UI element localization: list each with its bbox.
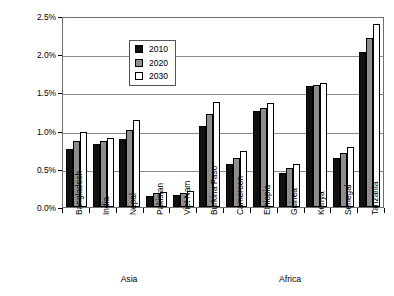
bar [359,52,366,207]
y-tick-label: 1.0% [16,128,56,136]
x-label-cell: Pakistan [142,213,169,273]
bar [279,173,286,207]
legend-label: 2030 [149,72,168,81]
x-tick-label: Viet Nam [183,181,192,215]
bar-chart: Expenditure as a percentage of GDP 0.0%0… [0,0,394,296]
x-label-cell: Cameroon [223,213,250,273]
legend-label: 2010 [149,45,168,54]
bar [119,139,126,207]
region-label-asia: Asia [62,274,196,284]
bar [66,149,73,207]
x-label-cell: Kenya [303,213,330,273]
bar-group [250,18,277,207]
x-tick-label: Ethiopia [263,185,272,215]
x-label-cell: Viet Nam [169,213,196,273]
bar [226,164,233,207]
x-tick-label: Senegal [344,184,353,215]
x-label-cell: India [89,213,116,273]
bar-group [303,18,330,207]
bar [199,126,206,207]
bar [173,195,180,207]
x-tick-label: Cameroon [236,176,245,215]
y-tick-label: 2.5% [16,13,56,21]
x-label-cell: Burkina Faso [196,213,223,273]
bar-groups [63,18,383,207]
legend-swatch-2030-icon [135,72,143,80]
legend-label: 2020 [149,59,168,68]
x-tick-label: Burkina Faso [210,166,219,215]
x-tick-mark [384,208,385,213]
legend: 2010 2020 2030 [129,40,176,86]
x-label-cell: Senegal [330,213,357,273]
bar [313,85,320,207]
bar [93,144,100,207]
x-tick-label: Guinea [290,188,299,215]
x-label-cell: Bangladesh [62,213,89,273]
plot-area: 2010 2020 2030 [62,17,384,208]
bar-group [90,18,117,207]
x-label-cell: Guinea [277,213,304,273]
bar-group [276,18,303,207]
y-tick-label: 1.5% [16,89,56,97]
bar [306,86,313,207]
legend-swatch-2010-icon [135,45,143,53]
x-tick-label: Tanzania [371,181,380,215]
legend-item: 2020 [135,59,168,68]
x-axis-labels: BangladeshIndiaNepalPakistanViet NamBurk… [62,213,384,273]
y-tick-label: 2.0% [16,51,56,59]
x-tick-label: Bangladesh [75,171,84,215]
x-label-cell: Nepal [116,213,143,273]
bar [253,111,260,207]
x-tick-label: Pakistan [156,183,165,215]
bar [373,24,380,207]
x-label-cell: Tanzania [357,213,384,273]
bar [320,83,327,207]
x-tick-label: India [102,197,111,215]
bar-group [356,18,383,207]
bar [333,158,340,207]
bar-group [330,18,357,207]
y-tick-label: 0.5% [16,166,56,174]
x-tick-label: Kenya [317,191,326,215]
bar [146,196,153,207]
legend-item: 2030 [135,72,168,81]
x-tick-label: Nepal [129,193,138,215]
x-label-cell: Ethiopia [250,213,277,273]
legend-item: 2010 [135,45,168,54]
y-tick-label: 0.0% [16,204,56,212]
legend-swatch-2020-icon [135,59,143,67]
region-label-africa: Africa [196,274,384,284]
